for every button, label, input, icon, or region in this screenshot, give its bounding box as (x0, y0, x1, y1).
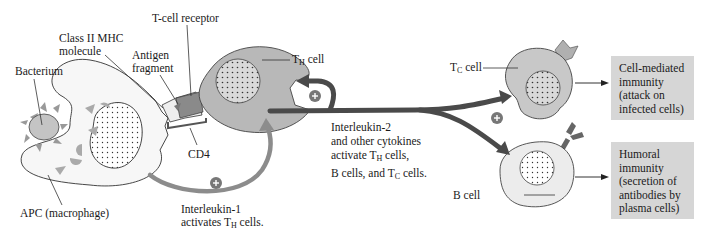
il1-line2-post: cells. (237, 216, 264, 228)
label-b-cell: B cell (453, 189, 480, 202)
tc-main: T (450, 61, 457, 73)
outcome-cell-mediated-immunity: Cell-mediated immunity (attack on infect… (611, 56, 694, 120)
hum-line3: (secretion of (619, 175, 677, 187)
label-class-ii-mhc-line2: molecule (59, 45, 101, 57)
tc-cell (505, 40, 578, 119)
cmi-line3: (attack on (619, 89, 665, 101)
th-suffix: cell (305, 53, 324, 65)
label-class-ii-mhc: Class II MHCmolecule (59, 32, 124, 58)
arrow-to-cell-mediated-icon (601, 80, 609, 86)
il2-line2: and other cytokines (331, 135, 421, 147)
label-apc: APC (macrophage) (20, 207, 109, 220)
il2-line4-pre: B cells, and T (331, 167, 395, 179)
label-antigen-line1: Antigen (132, 49, 169, 61)
label-t-cell-receptor: T-cell receptor (152, 12, 219, 25)
il2-line3-post: cells, (382, 149, 409, 161)
label-antigen-line2: fragment (132, 62, 174, 74)
cmi-line4: infected cells) (619, 103, 684, 115)
il1-line1: Interleukin-1 (181, 203, 241, 215)
il2-line3-pre: activate T (331, 149, 376, 161)
hum-line2: immunity (619, 162, 664, 174)
label-cd4: CD4 (188, 148, 210, 161)
b-cell (500, 122, 584, 207)
il2-line4-post: cells. (400, 167, 427, 179)
label-antigen-fragment: Antigenfragment (132, 49, 174, 75)
cmi-line2: immunity (619, 76, 664, 88)
tc-suffix: cell (462, 61, 481, 73)
hum-line1: Humoral (619, 148, 660, 160)
label-interleukin-2: Interleukin-2 and other cytokines activa… (331, 120, 427, 184)
il2-line1: Interleukin-2 (331, 121, 391, 133)
il1-line2-pre: activates T (181, 216, 231, 228)
arrow-to-tc-icon (499, 90, 512, 104)
label-interleukin-1: Interleukin-1 activates TH cells. (181, 203, 264, 232)
arrow-to-humoral-icon (601, 174, 609, 180)
label-class-ii-mhc-line1: Class II MHC (59, 32, 124, 44)
th-main: T (292, 53, 299, 65)
hum-line4: antibodies by (619, 189, 681, 201)
label-bacterium: Bacterium (15, 65, 63, 78)
outcome-humoral-immunity: Humoral immunity (secretion of antibodie… (611, 142, 694, 219)
hum-line5: plasma cells) (619, 202, 679, 214)
label-th-cell: TH cell (292, 53, 324, 69)
cmi-line1: Cell-mediated (619, 62, 684, 74)
label-tc-cell: TC cell (450, 61, 482, 77)
